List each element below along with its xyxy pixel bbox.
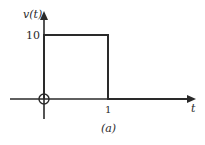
y-axis-label: v(t) <box>23 8 42 21</box>
figure-caption: (a) <box>101 122 116 135</box>
x-tick-label-1: 1 <box>105 104 111 115</box>
y-tick-label-10: 10 <box>26 29 40 42</box>
x-axis-label: t <box>191 102 196 115</box>
pulse-chart: v(t) 10 1 t (a) <box>0 0 205 145</box>
pulse-waveform <box>44 35 190 99</box>
